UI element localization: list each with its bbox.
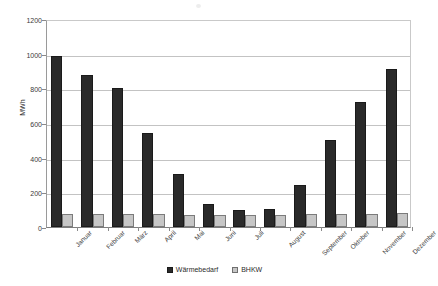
x-axis-tick-label: August	[287, 229, 306, 248]
bar-waermebedarf	[203, 204, 214, 227]
legend-entry: BHKW	[232, 266, 262, 273]
bar-group	[112, 21, 135, 227]
bar-waermebedarf	[294, 185, 305, 227]
bar-group	[325, 21, 348, 227]
legend-entry: Wärmebedarf	[167, 266, 218, 273]
bar-bhkw	[184, 215, 195, 227]
legend-label: BHKW	[241, 266, 262, 273]
y-axis-tick-label: 800	[8, 86, 42, 93]
legend-label: Wärmebedarf	[176, 266, 218, 273]
bar-waermebedarf	[112, 88, 123, 227]
y-axis-tick-mark	[42, 89, 46, 90]
bar-bhkw	[306, 214, 317, 227]
x-axis-tick-label: Dezember	[411, 229, 437, 255]
chart-legend: WärmebedarfBHKW	[0, 266, 429, 273]
y-axis-tick-mark	[42, 193, 46, 194]
y-axis-tick-label: 400	[8, 155, 42, 162]
bar-group	[264, 21, 287, 227]
bar-waermebedarf	[51, 56, 62, 227]
bar-waermebedarf	[142, 133, 153, 227]
bar-group	[51, 21, 74, 227]
x-axis-tick-label: September	[321, 229, 349, 257]
x-axis-labels: JanuarFebruarMärzAprilMaiJuniJuliAugustS…	[46, 229, 411, 263]
plot-area	[46, 20, 411, 228]
bar-waermebedarf	[386, 69, 397, 227]
y-axis-tick-label: 1000	[8, 51, 42, 58]
bar-bhkw	[214, 215, 225, 227]
bar-waermebedarf	[325, 140, 336, 227]
bar-bhkw	[397, 213, 408, 227]
bar-group	[355, 21, 378, 227]
image-artifact	[196, 4, 201, 8]
bar-bhkw	[62, 214, 73, 227]
x-axis-tick-label: Juni	[224, 229, 238, 243]
bar-group	[233, 21, 256, 227]
bar-waermebedarf	[81, 75, 92, 227]
x-axis-tick-label: Oktober	[349, 229, 371, 251]
y-axis-tick-label: 600	[8, 121, 42, 128]
y-axis-tick-mark	[42, 124, 46, 125]
x-axis-tick-label: Mai	[193, 229, 205, 241]
y-axis-tick-mark	[42, 228, 46, 229]
bar-waermebedarf	[173, 174, 184, 227]
x-axis-tick-label: März	[133, 229, 148, 244]
bar-group	[173, 21, 196, 227]
bar-group	[142, 21, 165, 227]
x-axis-tick-label: April	[163, 229, 177, 243]
bar-group	[294, 21, 317, 227]
bar-group	[203, 21, 226, 227]
y-axis-tick-label: 0	[8, 225, 42, 232]
y-axis-tick-mark	[42, 159, 46, 160]
bar-bhkw	[275, 215, 286, 227]
bar-group	[386, 21, 409, 227]
legend-swatch-icon	[167, 267, 173, 273]
bar-waermebedarf	[264, 209, 275, 227]
x-axis-tick-label: Juli	[253, 229, 265, 241]
y-axis-tick-area: 020040060080010001200	[0, 0, 42, 286]
y-axis-tick-label: 200	[8, 190, 42, 197]
x-axis-tick-mark	[412, 227, 413, 231]
x-axis-tick-label: Januar	[74, 229, 93, 248]
y-axis-tick-mark	[42, 55, 46, 56]
bar-group	[81, 21, 104, 227]
y-axis-tick-mark	[42, 20, 46, 21]
bar-waermebedarf	[355, 102, 366, 227]
y-axis-tick-label: 1200	[8, 17, 42, 24]
bar-bhkw	[336, 214, 347, 227]
bar-bhkw	[93, 214, 104, 227]
legend-swatch-icon	[232, 267, 238, 273]
bar-bhkw	[123, 214, 134, 227]
bar-bhkw	[153, 214, 164, 227]
x-axis-tick-label: Februar	[105, 229, 126, 250]
x-axis-tick-label: November	[381, 229, 407, 255]
bar-bhkw	[366, 214, 377, 227]
bar-waermebedarf	[233, 210, 244, 227]
bar-bhkw	[245, 215, 256, 227]
